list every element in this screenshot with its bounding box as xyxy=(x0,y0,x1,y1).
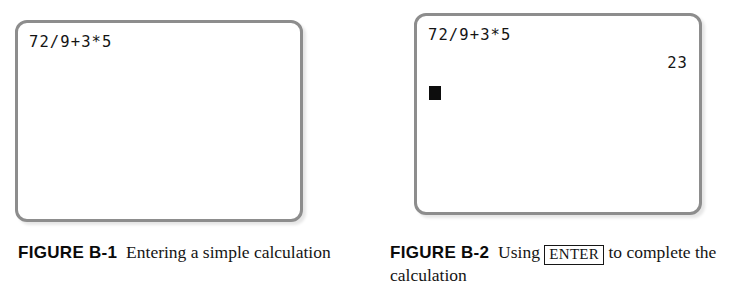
figure-label-b1: FIGURE B-1 xyxy=(18,243,117,262)
calculator-result-line: 23 xyxy=(667,56,688,72)
figure-label-b2: FIGURE B-2 xyxy=(390,243,489,262)
calculator-expression-line: 72/9+3*5 xyxy=(428,28,511,44)
figure-b-1: 72/9+3*5 FIGURE B-1 Entering a simple ca… xyxy=(0,0,360,306)
calculator-screen-b2: 72/9+3*5 23 xyxy=(414,13,702,215)
figure-caption-b2: FIGURE B-2 Using ENTER to complete the c… xyxy=(390,241,740,288)
figure-caption-b1: FIGURE B-1 Entering a simple calculation xyxy=(18,241,348,264)
calculator-cursor-block xyxy=(429,86,441,100)
figure-caption-text-before-key: Using xyxy=(498,242,540,262)
enter-key-glyph: ENTER xyxy=(544,245,604,265)
calculator-screen-b1: 72/9+3*5 xyxy=(15,20,303,222)
calculator-expression-line: 72/9+3*5 xyxy=(29,35,112,51)
figure-caption-text-b1: Entering a simple calculation xyxy=(126,242,331,262)
figure-b-2: 72/9+3*5 23 FIGURE B-2 Using ENTER to co… xyxy=(388,0,749,306)
